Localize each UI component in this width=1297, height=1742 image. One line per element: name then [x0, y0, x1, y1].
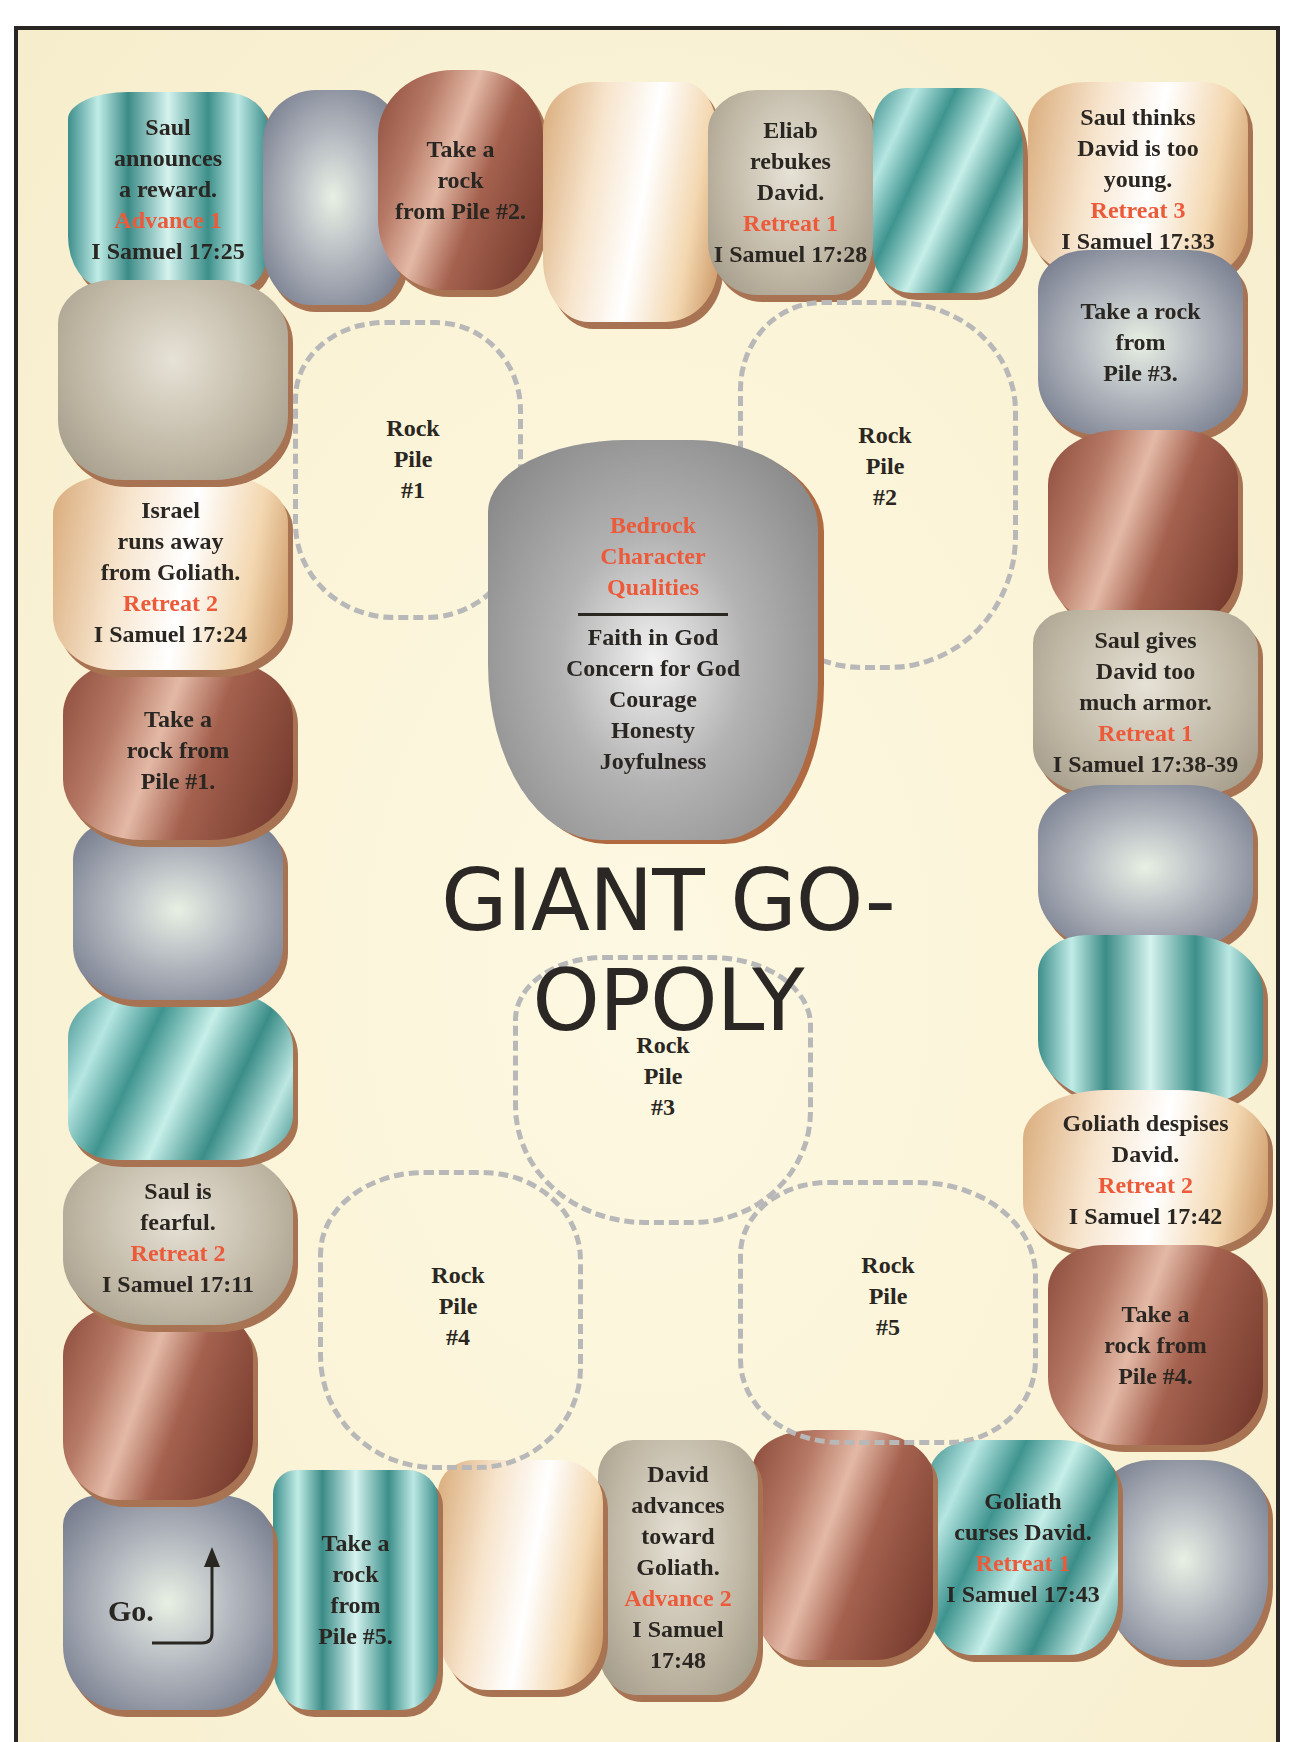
scripture-ref: I Samuel 17:11 — [102, 1269, 254, 1300]
space-blank[interactable] — [1098, 1460, 1268, 1660]
space-action: Retreat 3 — [1061, 195, 1214, 226]
space-action: Retreat 1 — [946, 1548, 1099, 1579]
space-take-rock-pile-3[interactable]: Take a rock from Pile #3. — [1038, 250, 1243, 435]
space-saul-too-young[interactable]: Saul thinks David is too young. Retreat … — [1028, 82, 1248, 277]
space-blank[interactable] — [63, 1305, 253, 1500]
quality-item: Concern for God — [566, 653, 740, 684]
space-saul-gives-armor[interactable]: Saul gives David too much armor. Retreat… — [1033, 610, 1258, 795]
space-blank[interactable] — [68, 990, 293, 1160]
space-blank[interactable] — [58, 280, 288, 480]
space-text: Goliath curses David. Retreat 1 I Samuel… — [946, 1486, 1099, 1610]
scripture-ref: I Samuel 17:28 — [714, 239, 867, 270]
space-take-rock-pile-5[interactable]: Take a rock from Pile #5. — [273, 1470, 438, 1710]
space-blank[interactable] — [873, 88, 1023, 293]
rock-pile-4-label: RockPile#4 — [403, 1260, 513, 1353]
rock-pile-1-label: RockPile#1 — [358, 413, 468, 506]
space-text: Saul gives David too much armor. Retreat… — [1053, 625, 1238, 780]
space-blank[interactable] — [438, 1460, 603, 1690]
space-action: Advance 1 — [91, 205, 244, 236]
bedrock-heading: Bedrock Character Qualities — [600, 510, 705, 603]
space-text: Take a rock from Pile #2. — [395, 134, 526, 227]
scripture-ref: I Samuel — [624, 1614, 731, 1645]
rock-pile-5-label: RockPile#5 — [833, 1250, 943, 1343]
scripture-ref: I Samuel 17:25 — [91, 236, 244, 267]
space-take-rock-pile-4[interactable]: Take a rock from Pile #4. — [1048, 1245, 1263, 1445]
space-saul-fearful[interactable]: Saul is fearful. Retreat 2 I Samuel 17:1… — [63, 1150, 293, 1325]
quality-item: Joyfulness — [566, 746, 740, 777]
arrow-up-icon — [148, 1543, 228, 1653]
space-text: Take a rock from Pile #1. — [127, 704, 229, 797]
space-david-advances[interactable]: David advances toward Goliath. Advance 2… — [598, 1440, 758, 1695]
scripture-ref: I Samuel 17:38-39 — [1053, 749, 1238, 780]
go-label: Go. — [108, 1595, 154, 1626]
game-title: GIANT GO-OPOLY — [318, 850, 1018, 1050]
scripture-ref: I Samuel 17:24 — [94, 619, 247, 650]
space-eliab-rebukes[interactable]: Eliab rebukes David. Retreat 1 I Samuel … — [708, 90, 873, 295]
space-action: Retreat 1 — [1053, 718, 1238, 749]
space-blank[interactable] — [753, 1430, 933, 1660]
space-go[interactable]: Go. — [63, 1495, 273, 1710]
space-blank[interactable] — [543, 82, 718, 322]
space-saul-reward[interactable]: Saul announces a reward. Advance 1 I Sam… — [68, 92, 268, 287]
space-blank[interactable] — [73, 820, 283, 1000]
bedrock-character-qualities: Bedrock Character Qualities Faith in God… — [488, 440, 818, 840]
qualities-list: Faith in God Concern for God Courage Hon… — [566, 622, 740, 777]
space-goliath-despises[interactable]: Goliath despises David. Retreat 2 I Samu… — [1023, 1090, 1268, 1250]
space-blank[interactable] — [1048, 430, 1238, 625]
scripture-ref: I Samuel 17:43 — [946, 1579, 1099, 1610]
space-text: David advances toward Goliath. Advance 2… — [624, 1459, 731, 1676]
space-action: Retreat 2 — [102, 1238, 254, 1269]
space-action: Retreat 1 — [714, 208, 867, 239]
space-action: Retreat 2 — [94, 588, 247, 619]
quality-item: Faith in God — [566, 622, 740, 653]
space-take-rock-pile-1[interactable]: Take a rock from Pile #1. — [63, 660, 293, 840]
go-marker: Go. — [108, 1543, 228, 1663]
space-text: Take a rock from Pile #3. — [1080, 296, 1200, 389]
space-blank[interactable] — [1038, 935, 1263, 1105]
rock-pile-2-label: RockPile#2 — [830, 420, 940, 513]
quality-item: Courage — [566, 684, 740, 715]
space-text: Take a rock from Pile #4. — [1104, 1299, 1206, 1392]
heading-divider — [578, 613, 728, 616]
space-text: Goliath despises David. Retreat 2 I Samu… — [1062, 1108, 1228, 1232]
quality-item: Honesty — [566, 715, 740, 746]
space-text: Eliab rebukes David. Retreat 1 I Samuel … — [714, 115, 867, 270]
space-text: Take a rock from Pile #5. — [318, 1528, 393, 1652]
space-text: Saul thinks David is too young. Retreat … — [1061, 102, 1214, 257]
space-text: Saul is fearful. Retreat 2 I Samuel 17:1… — [102, 1176, 254, 1300]
space-action: Retreat 2 — [1062, 1170, 1228, 1201]
scripture-ref: I Samuel 17:42 — [1062, 1201, 1228, 1232]
game-board: Saul announces a reward. Advance 1 I Sam… — [14, 26, 1280, 1742]
space-blank[interactable] — [1038, 785, 1253, 950]
space-action: Advance 2 — [624, 1583, 731, 1614]
space-take-rock-pile-2[interactable]: Take a rock from Pile #2. — [378, 70, 543, 290]
space-israel-runs[interactable]: Israel runs away from Goliath. Retreat 2… — [53, 475, 288, 670]
scripture-ref: 17:48 — [624, 1645, 731, 1676]
space-text: Saul announces a reward. Advance 1 I Sam… — [91, 112, 244, 267]
space-goliath-curses[interactable]: Goliath curses David. Retreat 1 I Samuel… — [928, 1440, 1118, 1655]
space-text: Israel runs away from Goliath. Retreat 2… — [94, 495, 247, 650]
